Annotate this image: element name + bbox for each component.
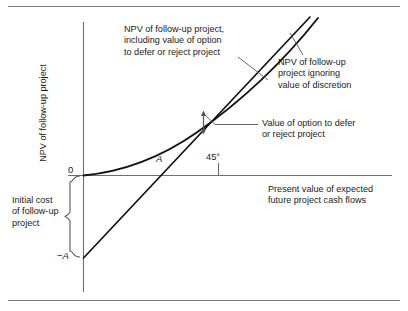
annotation-initial-cost: Initial cost of follow-up project xyxy=(12,195,59,229)
point-label-a: A xyxy=(156,153,162,164)
y-axis-label: NPV of follow-up project xyxy=(38,53,48,173)
annotation-option-curve: NPV of follow-up project, including valu… xyxy=(124,24,224,58)
x-axis-label: Present value of expected future project… xyxy=(268,184,373,207)
leader-line-ignoring xyxy=(290,33,303,55)
annotation-ignoring-discretion: NPV of follow-up project ignoring value … xyxy=(278,57,351,91)
option-gap-arrow xyxy=(201,111,206,135)
angle-label-45-degrees: 45° xyxy=(206,152,220,163)
y-axis-tick-negative-a: −A xyxy=(57,250,69,261)
annotation-option-value: Value of option to defer or reject proje… xyxy=(262,118,355,141)
figure-container: NPV of follow-up project, including valu… xyxy=(0,0,408,311)
initial-cost-brace xyxy=(65,176,80,257)
y-axis-tick-zero: 0 xyxy=(68,164,73,175)
